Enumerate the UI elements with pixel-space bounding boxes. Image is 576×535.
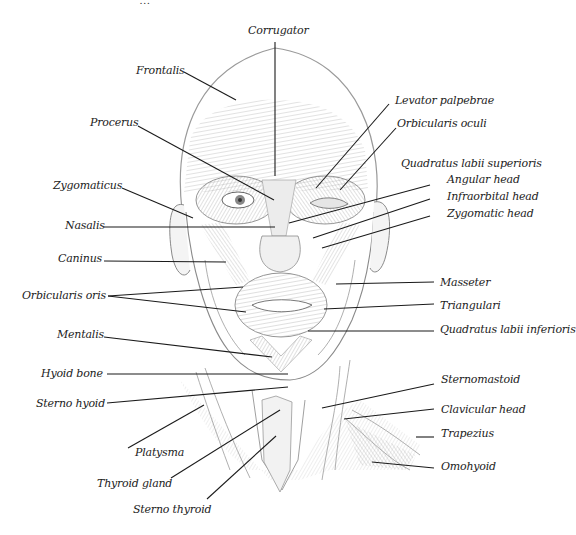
label-platysma: Platysma — [135, 446, 184, 459]
label-nasalis: Nasalis — [65, 219, 105, 232]
label-quadratus-labii-superioris: Quadratus labii superioris — [401, 157, 542, 170]
leader-line-sterno-thyroid — [207, 436, 276, 499]
leader-line-sternomastoid — [322, 384, 434, 408]
label-corrugator: Corrugator — [248, 24, 309, 37]
leader-line-platysma — [128, 405, 204, 448]
leader-line-orbicularis-oris — [108, 287, 243, 296]
leader-line-masseter — [336, 282, 434, 284]
label-quadratus-labii-inferioris: Quadratus labii inferioris — [440, 323, 576, 336]
label-frontalis: Frontalis — [136, 64, 184, 77]
label-mentalis: Mentalis — [57, 328, 104, 341]
label-zygomaticus: Zygomaticus — [53, 179, 122, 192]
label-triangulari: Triangulari — [440, 299, 501, 312]
leader-line-orbicularis-oris-2 — [108, 296, 246, 312]
label-hyoid-bone: Hyoid bone — [41, 367, 103, 380]
leader-line-triangulari — [324, 304, 434, 309]
leader-line-frontalis — [184, 72, 236, 100]
label-levator-palpebrae: Levator palpebrae — [395, 94, 494, 107]
label-caninus: Caninus — [58, 252, 102, 265]
leader-line-mentalis — [104, 337, 272, 357]
label-clavicular-head: Clavicular head — [441, 403, 526, 416]
label-thyroid-gland: Thyroid gland — [97, 477, 172, 490]
label-trapezius: Trapezius — [441, 427, 494, 440]
label-sterno-thyroid: Sterno thyroid — [133, 503, 211, 516]
label-infraorbital-head: Infraorbital head — [447, 190, 539, 203]
label-sterno-hyoid: Sterno hyoid — [36, 397, 105, 410]
label-omohyoid: Omohyoid — [441, 460, 496, 473]
label-sternomastoid: Sternomastoid — [441, 373, 520, 386]
label-procerus: Procerus — [90, 116, 138, 129]
label-masseter: Masseter — [440, 276, 490, 289]
label-angular-head: Angular head — [447, 173, 520, 186]
label-orbicularis-oris: Orbicularis oris — [22, 289, 106, 302]
cropped-heading: … — [140, 0, 150, 6]
label-zygomatic-head: Zygomatic head — [447, 207, 534, 220]
leader-line-caninus — [104, 261, 226, 262]
label-orbicularis-oculi: Orbicularis oculi — [397, 117, 487, 130]
leader-line-zygomaticus — [122, 188, 193, 218]
